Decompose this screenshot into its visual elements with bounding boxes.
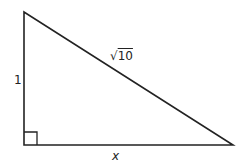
square-root-symbol: √ xyxy=(110,49,118,63)
right-triangle-diagram: 1 √10 x xyxy=(0,0,245,168)
hypotenuse-label: √10 xyxy=(110,50,133,62)
horizontal-leg-label: x xyxy=(112,150,119,162)
triangle-figure xyxy=(0,0,245,168)
right-angle-marker xyxy=(24,132,37,145)
triangle-outline xyxy=(24,12,233,145)
vertical-leg-label: 1 xyxy=(14,74,22,86)
hypotenuse-radicand: 10 xyxy=(118,49,133,63)
